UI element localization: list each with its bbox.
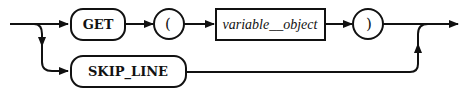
- return-line: [186, 44, 418, 72]
- syntax-diagram: GET ( variable__object ) SKIP_LINE: [0, 0, 464, 91]
- open-paren-label: (: [165, 15, 171, 33]
- get-keyword-node: GET: [71, 9, 125, 40]
- branch-down-line: [34, 24, 42, 46]
- close-paren-node: ): [353, 9, 383, 39]
- merge-line: [418, 24, 428, 44]
- get-keyword-label: GET: [83, 17, 114, 32]
- variable-object-node: variable__object: [216, 9, 325, 40]
- skip-line-keyword-node: SKIP_LINE: [71, 56, 186, 87]
- close-paren-label: ): [366, 15, 372, 33]
- skip-line-keyword-label: SKIP_LINE: [88, 64, 168, 80]
- branch-to-skip-line: [42, 46, 68, 71]
- variable-object-label: variable__object: [223, 17, 319, 32]
- open-paren-node: (: [154, 9, 184, 39]
